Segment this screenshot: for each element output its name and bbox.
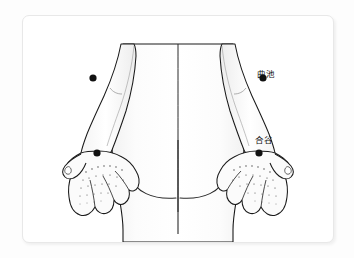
body-diagram-svg (23, 16, 333, 242)
left-thumb-nail (65, 167, 72, 175)
acupoint-label-quchi: 曲池 (257, 70, 276, 79)
acupoint-marker-quchi-left (89, 74, 96, 81)
anatomy-figure: 曲池 合谷 (23, 16, 333, 242)
acupoint-marker-hegu-left (93, 149, 100, 156)
screenshot-root: 曲池 合谷 (0, 0, 354, 258)
illustration-card: 曲池 合谷 (22, 15, 334, 243)
acupoint-marker-hegu-right (255, 149, 262, 156)
acupoint-label-hegu: 合谷 (255, 136, 274, 145)
right-thumb-nail (285, 167, 292, 175)
